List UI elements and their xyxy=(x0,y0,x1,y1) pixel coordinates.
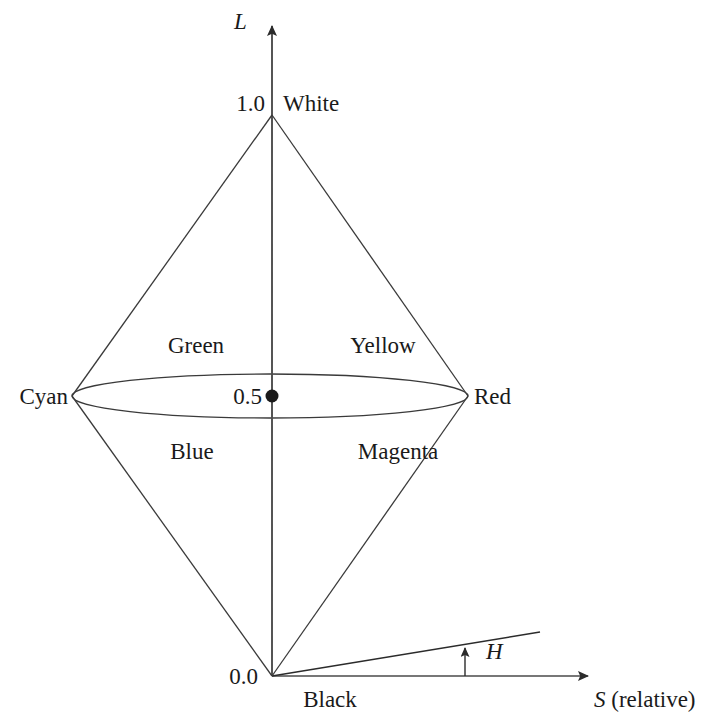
hue-angle-label: H xyxy=(486,640,503,663)
hsl-bicone-diagram: L 1.0 White 0.5 Cyan Red Green Yellow Bl… xyxy=(0,0,702,717)
s-axis-label-qualifier: (relative) xyxy=(611,687,695,712)
vertex-label-red: Red xyxy=(474,385,511,408)
vertex-label-cyan: Cyan xyxy=(19,385,68,408)
s-axis-label: S (relative) xyxy=(594,688,696,711)
hue-label-green: Green xyxy=(168,334,224,357)
l-tick-bottom-label: 0.0 xyxy=(229,665,258,688)
hue-label-blue: Blue xyxy=(170,440,213,463)
hue-label-magenta: Magenta xyxy=(358,440,438,463)
l-axis-label: L xyxy=(234,10,247,33)
vertex-label-black: Black xyxy=(303,688,357,711)
l-tick-middle-label: 0.5 xyxy=(233,385,262,408)
hue-label-yellow: Yellow xyxy=(350,334,415,357)
vertex-label-white: White xyxy=(283,92,339,115)
l-tick-top-label: 1.0 xyxy=(236,92,265,115)
center-point-marker xyxy=(266,390,279,403)
diagram-canvas xyxy=(0,0,702,717)
s-axis-label-variable: S xyxy=(594,687,606,712)
